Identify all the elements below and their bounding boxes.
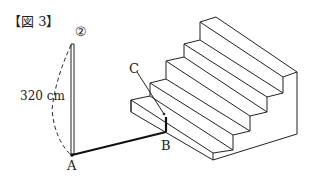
- pole: [71, 44, 74, 155]
- dashed-arc: [52, 45, 71, 155]
- point-a: [70, 153, 74, 157]
- diagram-canvas: [0, 0, 315, 180]
- rope-ab: [72, 117, 166, 155]
- point-c-marker: [163, 113, 166, 116]
- staircase: [131, 17, 297, 160]
